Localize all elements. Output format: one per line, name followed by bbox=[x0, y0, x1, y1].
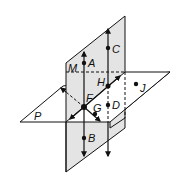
label-b: B bbox=[88, 132, 95, 144]
label-a: A bbox=[87, 57, 95, 69]
point-f bbox=[81, 104, 87, 110]
point-a bbox=[82, 61, 86, 65]
label-d: D bbox=[112, 99, 120, 111]
point-c bbox=[106, 46, 110, 50]
label-h: H bbox=[97, 76, 105, 88]
label-p: P bbox=[34, 110, 42, 122]
point-d bbox=[106, 103, 110, 107]
point-j bbox=[134, 82, 138, 86]
label-j: J bbox=[139, 82, 146, 94]
label-g: G bbox=[93, 102, 102, 114]
label-m: M bbox=[68, 62, 78, 74]
intersecting-planes-diagram: M P A B C D F G H J bbox=[0, 0, 179, 183]
label-c: C bbox=[112, 43, 120, 55]
point-b bbox=[82, 136, 86, 140]
point-h bbox=[106, 84, 111, 89]
